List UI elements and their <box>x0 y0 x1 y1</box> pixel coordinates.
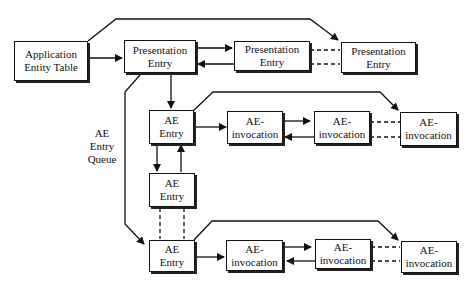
node-label-line2: invocation <box>232 128 278 141</box>
presentation-entry-box-3: Presentation Entry <box>341 42 416 73</box>
node-label-line1: Presentation <box>351 45 405 58</box>
node-label-line1: AE- <box>231 243 277 256</box>
node-label-line2: Entry <box>245 56 299 69</box>
ae-invocation-box-3c: AE- invocation <box>401 241 457 273</box>
node-label-line2: invocation <box>319 128 365 141</box>
node-label-line1: AE- <box>406 244 452 257</box>
node-label-line1: AE- <box>232 115 278 128</box>
node-label-line2: Entity Table <box>24 61 78 74</box>
node-label-line2: Entry <box>159 127 183 140</box>
node-label-line1: AE <box>159 114 183 127</box>
arrow-aet-to-pe3 <box>88 19 338 41</box>
presentation-entry-box-1: Presentation Entry <box>124 40 196 73</box>
node-label-line2: invocation <box>231 256 277 269</box>
node-label-line1: AE- <box>405 116 451 129</box>
application-entity-table-box: Application Entity Table <box>14 41 88 81</box>
presentation-entry-box-2: Presentation Entry <box>234 41 310 71</box>
node-label-line1: Presentation <box>133 44 187 57</box>
node-label-line1: Presentation <box>245 43 299 56</box>
node-label-line2: Entry <box>133 57 187 70</box>
ae-invocation-box-3a: AE- invocation <box>226 240 283 271</box>
arrow-ae1-to-inv1c <box>193 92 398 111</box>
node-label-line1: AE <box>160 177 184 190</box>
node-label-line2: invocation <box>405 129 451 142</box>
ae-invocation-box-1c: AE- invocation <box>400 112 457 146</box>
node-label-line2: invocation <box>320 254 366 267</box>
node-label-line2: Entry <box>160 190 184 203</box>
node-label-line2: invocation <box>406 257 452 270</box>
node-label-line1: AE- <box>320 241 366 254</box>
node-label-line1: AE- <box>319 115 365 128</box>
ae-invocation-box-1b: AE- invocation <box>314 111 370 144</box>
node-label-line2: Entry <box>351 58 405 71</box>
node-label-line1: Application <box>24 48 78 61</box>
node-label-line1: AE <box>160 243 184 256</box>
queue-label-line2: Entry <box>82 140 122 153</box>
arrow-queue-to-ae3 <box>125 75 144 244</box>
ae-entry-box-3: AE Entry <box>149 240 195 272</box>
ae-invocation-box-3b: AE- invocation <box>315 239 371 269</box>
queue-label-line1: AE <box>82 127 122 140</box>
queue-label-line3: Queue <box>82 153 122 166</box>
node-label-line2: Entry <box>160 256 184 269</box>
ae-invocation-box-1a: AE- invocation <box>227 111 283 144</box>
arrow-ae3-to-inv3c <box>194 221 398 240</box>
ae-entry-queue-label: AE Entry Queue <box>82 127 122 166</box>
ae-entry-box-2: AE Entry <box>149 173 195 207</box>
ae-entry-box-1: AE Entry <box>149 110 194 144</box>
